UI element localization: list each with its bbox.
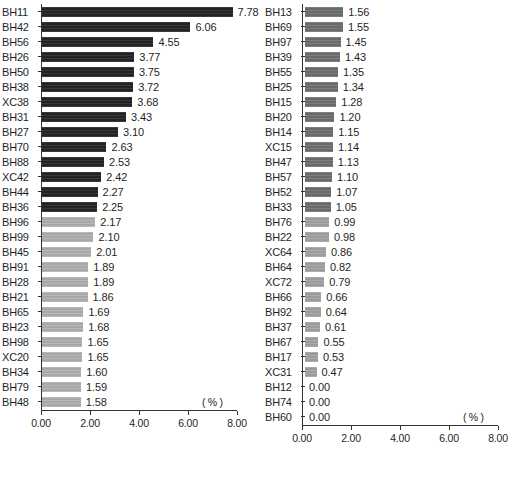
bar-zone: 1.15 xyxy=(305,124,369,139)
bar-value-label: 1.28 xyxy=(341,96,362,108)
x-axis-tick xyxy=(400,426,401,430)
bar xyxy=(42,292,88,302)
bar xyxy=(305,202,331,212)
bar-row: BH992.10 xyxy=(0,229,259,244)
bar-row: BH170.53 xyxy=(256,349,369,364)
bar-zone: 3.77 xyxy=(42,49,259,64)
bar-zone: 0.64 xyxy=(305,304,369,319)
bar-row: BH571.10 xyxy=(256,169,369,184)
category-label: BH11 xyxy=(0,6,38,18)
category-label: BH47 xyxy=(256,156,301,168)
bar xyxy=(305,232,329,242)
bar xyxy=(305,142,333,152)
category-label: BH27 xyxy=(0,126,38,138)
bar-zone: 2.42 xyxy=(42,169,259,184)
bar-value-label: 1.07 xyxy=(336,186,357,198)
bar-row: BH141.15 xyxy=(256,124,369,139)
bar xyxy=(305,307,321,317)
bar-row: XC640.86 xyxy=(256,244,369,259)
x-axis-tick xyxy=(449,426,450,430)
bar-value-label: 0.53 xyxy=(323,351,344,363)
category-label: BH96 xyxy=(0,216,38,228)
bar-row: BH341.60 xyxy=(0,364,259,379)
bar-zone: 1.65 xyxy=(42,334,259,349)
x-axis-tick-label: 2.00 xyxy=(70,417,110,429)
bar-zone: 1.69 xyxy=(42,304,259,319)
category-label: BH22 xyxy=(256,231,301,243)
bar xyxy=(42,367,81,377)
bar xyxy=(42,277,88,287)
chart-rows-right: BH131.56BH691.55BH971.45BH391.43BH551.35… xyxy=(256,4,369,424)
bar xyxy=(305,172,332,182)
bar-value-label: 1.10 xyxy=(337,171,358,183)
bar-row: XC151.14 xyxy=(256,139,369,154)
category-label: BH13 xyxy=(256,6,301,18)
bar-row: BH452.01 xyxy=(0,244,259,259)
bar-value-label: 3.43 xyxy=(131,111,152,123)
bar xyxy=(42,127,118,137)
x-axis-tick xyxy=(237,411,238,415)
bar xyxy=(305,127,333,137)
category-label: BH99 xyxy=(0,231,38,243)
category-label: BH64 xyxy=(256,261,301,273)
bar-value-label: 2.42 xyxy=(106,171,127,183)
bar xyxy=(305,37,341,47)
bar xyxy=(42,97,132,107)
bar-value-label: 2.53 xyxy=(109,156,130,168)
bar xyxy=(42,187,98,197)
bar-zone: 0.53 xyxy=(305,349,369,364)
bar-value-label: 1.45 xyxy=(346,36,367,48)
bar xyxy=(42,52,134,62)
category-label: BH97 xyxy=(256,36,301,48)
category-label: XC15 xyxy=(256,141,301,153)
x-axis-tick xyxy=(90,411,91,415)
bar-row: BH362.25 xyxy=(0,199,259,214)
category-label: BH79 xyxy=(0,381,38,393)
bar-value-label: 1.59 xyxy=(86,381,107,393)
bar-row: BH651.69 xyxy=(0,304,259,319)
bar xyxy=(305,217,329,227)
bar-row: BH760.99 xyxy=(256,214,369,229)
bar-value-label: 0.00 xyxy=(309,381,330,393)
bar-value-label: 2.01 xyxy=(96,246,117,258)
bar-zone: 0.61 xyxy=(305,319,369,334)
bar-row: BH691.55 xyxy=(256,19,369,34)
bar-zone: 1.20 xyxy=(305,109,369,124)
bar-row: BH981.65 xyxy=(0,334,259,349)
bar-row: BH370.61 xyxy=(256,319,369,334)
bar xyxy=(305,262,325,272)
bar xyxy=(42,22,190,32)
category-label: BH92 xyxy=(256,306,301,318)
x-axis-tick-label: 2.00 xyxy=(331,432,371,444)
bar-zone: 7.78 xyxy=(42,4,259,19)
bar-row: BH640.82 xyxy=(256,259,369,274)
category-label: BH60 xyxy=(256,411,301,423)
bar-row: BH220.98 xyxy=(256,229,369,244)
bar xyxy=(305,52,340,62)
bar-zone: 1.89 xyxy=(42,259,259,274)
bar-value-label: 1.68 xyxy=(88,321,109,333)
bar xyxy=(42,382,81,392)
axis-unit-label: ( % ) xyxy=(463,411,484,423)
category-label: BH67 xyxy=(256,336,301,348)
bar-zone: 6.06 xyxy=(42,19,259,34)
bar-row: XC383.68 xyxy=(0,94,259,109)
bar-zone: 0.00 xyxy=(305,394,369,409)
category-label: BH38 xyxy=(0,81,38,93)
bar-value-label: 1.56 xyxy=(348,6,369,18)
bar-value-label: 0.61 xyxy=(325,321,346,333)
bar-zone: 0.82 xyxy=(305,259,369,274)
x-axis-tick xyxy=(41,411,42,415)
y-axis-line xyxy=(302,4,303,425)
bar-value-label: 2.25 xyxy=(102,201,123,213)
x-axis-tick-label: 0.00 xyxy=(282,432,322,444)
bar-row: BH442.27 xyxy=(0,184,259,199)
bar xyxy=(42,37,153,47)
bar-row: BH670.55 xyxy=(256,334,369,349)
bar-row: BH117.78 xyxy=(0,4,259,19)
category-label: BH57 xyxy=(256,171,301,183)
bar-zone: 1.45 xyxy=(305,34,369,49)
bar-row: BH131.56 xyxy=(256,4,369,19)
bar-value-label: 1.65 xyxy=(87,336,108,348)
bar-value-label: 1.13 xyxy=(338,156,359,168)
